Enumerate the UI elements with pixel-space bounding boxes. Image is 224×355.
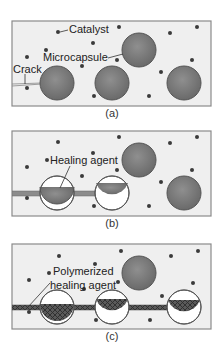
microcapsule (122, 143, 156, 177)
catalyst-label: Catalyst (69, 23, 109, 35)
microcapsule (95, 66, 129, 100)
panel-caption: (a) (105, 107, 118, 119)
panel-b: Healing agent (b) (12, 131, 211, 229)
panel-caption: (c) (106, 330, 119, 342)
microcapsule (40, 66, 74, 100)
crack-label: Crack (13, 63, 42, 75)
microcapsule (122, 33, 156, 67)
microcapsule-label: Microcapsule (43, 51, 108, 63)
ruptured-microcapsule-polymerized (167, 290, 201, 324)
polymerized-label-line1: Polymerized (53, 265, 114, 277)
ruptured-microcapsule-polymerized (40, 290, 74, 324)
self-healing-diagram: Catalyst Microcapsule Crack (a) (0, 0, 224, 355)
microcapsule (122, 256, 156, 290)
polymerized-label-line2: healing agent (50, 279, 116, 291)
ruptured-microcapsule-polymerized (95, 290, 129, 324)
panel-a: Catalyst Microcapsule Crack (a) (12, 21, 211, 119)
microcapsule (167, 66, 201, 100)
panel-caption: (b) (105, 217, 118, 229)
ruptured-microcapsule (40, 176, 74, 210)
healing-agent-label: Healing agent (50, 154, 118, 166)
microcapsule (167, 176, 201, 210)
ruptured-microcapsule (95, 176, 129, 210)
panel-c: Polymerized healing agent (c) (12, 244, 211, 342)
